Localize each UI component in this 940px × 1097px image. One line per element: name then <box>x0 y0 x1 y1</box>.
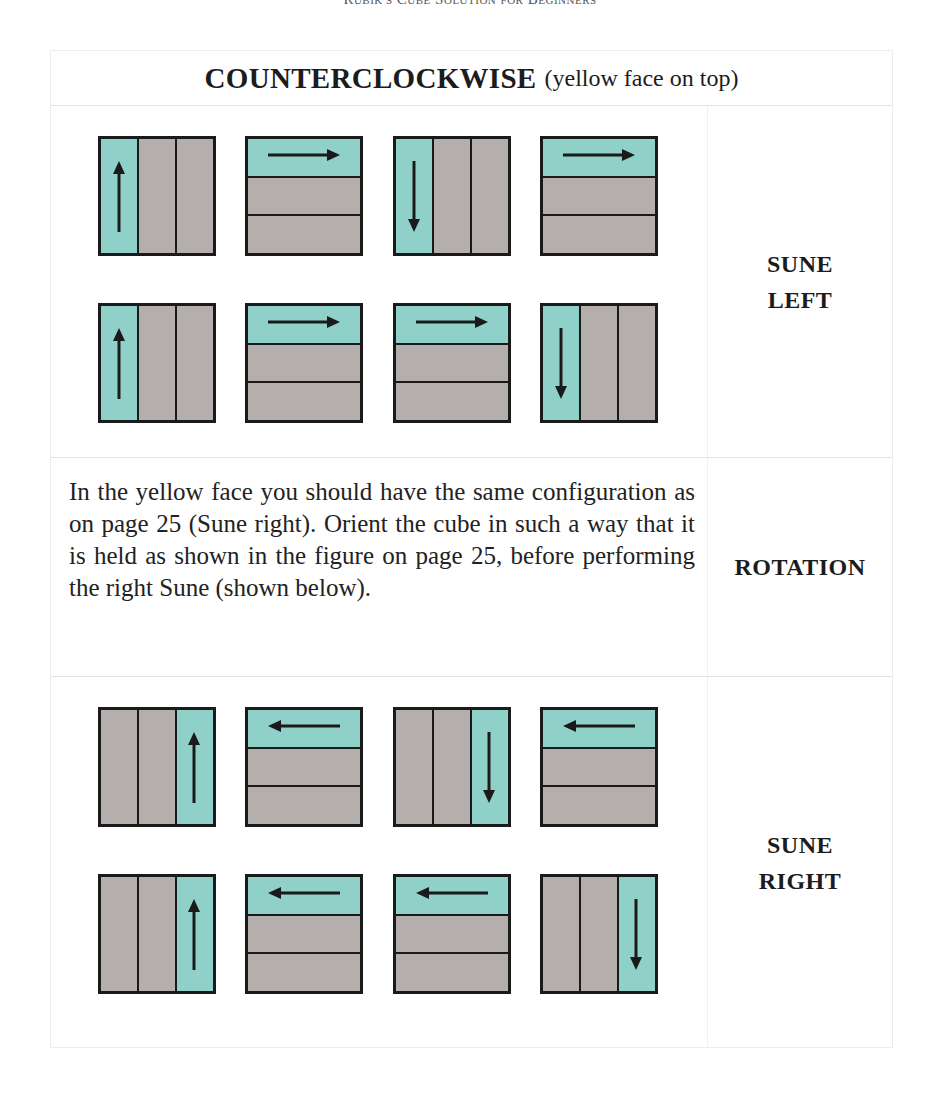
cube-move-diagram <box>393 136 511 256</box>
rotation-instructions: In the yellow face you should have the s… <box>69 476 695 604</box>
sune-right-label-line2: RIGHT <box>759 863 842 899</box>
sune-right-diagrams <box>51 677 707 1048</box>
cube-move-diagram <box>98 303 216 423</box>
cube-move-diagram <box>540 303 658 423</box>
cube-move-diagram <box>393 707 511 827</box>
sune-right-label-cell: SUNE RIGHT <box>707 677 892 1048</box>
arrow-up-icon <box>101 139 213 253</box>
cube-move-diagram <box>245 136 363 256</box>
cube-move-diagram <box>245 874 363 994</box>
arrow-right-icon <box>248 139 360 253</box>
sune-left-label-line2: LEFT <box>767 282 833 318</box>
row-sune-left: SUNE LEFT <box>51 106 892 458</box>
row-sune-right: SUNE RIGHT <box>51 677 892 1048</box>
arrow-right-icon <box>248 306 360 420</box>
table-title-row: COUNTERCLOCKWISE (yellow face on top) <box>51 51 892 106</box>
cube-move-diagram <box>540 707 658 827</box>
arrow-down-icon <box>396 139 508 253</box>
arrow-right-icon <box>543 139 655 253</box>
arrow-up-icon <box>101 306 213 420</box>
cube-move-diagram <box>245 303 363 423</box>
arrow-up-icon <box>101 710 213 824</box>
cube-move-diagram <box>393 874 511 994</box>
sune-right-label-line1: SUNE <box>759 827 842 863</box>
sune-left-label-cell: SUNE LEFT <box>707 106 892 457</box>
arrow-up-icon <box>101 877 213 991</box>
cube-move-diagram <box>245 707 363 827</box>
arrow-left-icon <box>543 710 655 824</box>
arrow-right-icon <box>396 306 508 420</box>
title-main: COUNTERCLOCKWISE <box>205 62 537 95</box>
title-subtitle: (yellow face on top) <box>545 65 739 92</box>
arrow-left-icon <box>248 710 360 824</box>
row-rotation: In the yellow face you should have the s… <box>51 458 892 677</box>
cube-move-diagram <box>540 874 658 994</box>
arrow-down-icon <box>396 710 508 824</box>
rotation-label: ROTATION <box>734 549 865 585</box>
sune-left-diagrams <box>51 106 707 457</box>
rotation-label-cell: ROTATION <box>707 458 892 676</box>
rotation-text-cell: In the yellow face you should have the s… <box>51 458 707 676</box>
arrow-left-icon <box>396 877 508 991</box>
algorithm-table: COUNTERCLOCKWISE (yellow face on top) SU… <box>50 50 893 1048</box>
arrow-left-icon <box>248 877 360 991</box>
running-head: Rubik's Cube Solution for Beginners <box>0 0 940 8</box>
cube-move-diagram <box>540 136 658 256</box>
cube-move-diagram <box>393 303 511 423</box>
arrow-down-icon <box>543 306 655 420</box>
sune-left-label-line1: SUNE <box>767 246 833 282</box>
cube-move-diagram <box>98 707 216 827</box>
cube-move-diagram <box>98 136 216 256</box>
arrow-down-icon <box>543 877 655 991</box>
cube-move-diagram <box>98 874 216 994</box>
